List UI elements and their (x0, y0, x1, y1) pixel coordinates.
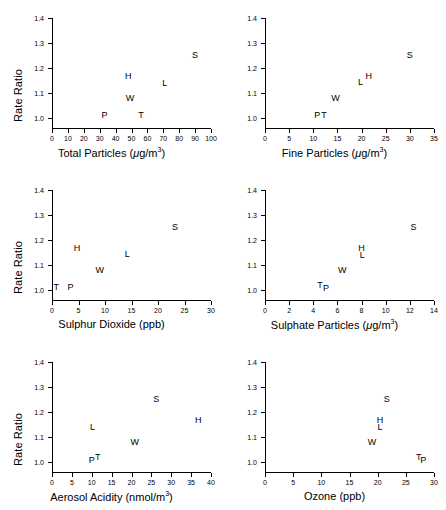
x-axis-title: Total Particles (μg/m3) (0, 146, 223, 159)
x-axis-line (265, 128, 434, 129)
data-point-S: S (404, 51, 416, 60)
x-tick-label: 5 (281, 479, 305, 486)
y-tick (261, 437, 265, 438)
x-tick-label: 20 (146, 307, 170, 314)
x-tick (52, 301, 53, 305)
x-tick (362, 129, 363, 133)
data-point-L: L (374, 423, 386, 432)
x-axis-title: Fine Particles (μg/m3) (223, 146, 446, 159)
y-tick (261, 93, 265, 94)
data-point-L: L (121, 250, 133, 259)
x-tick (105, 301, 106, 305)
y-tick (261, 290, 265, 291)
y-tick-label: 1.2 (231, 409, 257, 416)
x-tick-label: 8 (350, 307, 374, 314)
x-tick-label: 20 (350, 135, 374, 142)
x-tick (350, 473, 351, 477)
x-tick (434, 473, 435, 477)
x-axis-title: Aerosol Acidity (nmol/m3) (0, 490, 223, 503)
y-tick-label: 1.3 (18, 212, 44, 219)
y-tick (48, 265, 52, 266)
data-point-S: S (381, 395, 393, 404)
x-tick (362, 301, 363, 305)
x-tick (434, 129, 435, 133)
y-tick (48, 437, 52, 438)
x-tick-label: 30 (422, 479, 446, 486)
x-tick-label: 10 (374, 307, 398, 314)
x-tick-label: 10 (93, 307, 117, 314)
x-tick (337, 129, 338, 133)
data-point-W: W (366, 438, 378, 447)
y-tick-label: 1.3 (231, 40, 257, 47)
x-tick-label: 25 (173, 307, 197, 314)
x-tick (163, 129, 164, 133)
plot-area: 1.01.11.21.31.40510152025303540PTLWSHRat… (0, 344, 223, 510)
x-tick (179, 129, 180, 133)
y-tick-label: 1.4 (231, 187, 257, 194)
y-tick (261, 18, 265, 19)
x-tick (211, 301, 212, 305)
y-tick-label: 1.4 (231, 15, 257, 22)
y-tick (261, 68, 265, 69)
y-tick (261, 412, 265, 413)
y-tick (48, 362, 52, 363)
x-tick-label: 25 (394, 479, 418, 486)
x-tick-label: 15 (120, 307, 144, 314)
data-point-L: L (356, 251, 368, 260)
x-axis-title: Sulphur Dioxide (ppb) (0, 318, 223, 330)
y-tick (261, 43, 265, 44)
y-tick (261, 462, 265, 463)
data-point-W: W (94, 266, 106, 275)
x-tick-label: 15 (338, 479, 362, 486)
x-tick (293, 473, 294, 477)
y-axis-line (265, 18, 266, 128)
y-tick-label: 1.4 (231, 359, 257, 366)
y-tick-label: 1.3 (18, 384, 44, 391)
y-axis-line (52, 362, 53, 472)
x-tick (171, 473, 172, 477)
x-tick (116, 129, 117, 133)
y-tick (261, 387, 265, 388)
data-point-S: S (169, 223, 181, 232)
y-axis-line (265, 190, 266, 300)
x-tick (386, 129, 387, 133)
data-point-P: P (65, 283, 77, 292)
y-tick-label: 1.2 (231, 65, 257, 72)
y-axis-title: Rate Ratio (12, 69, 24, 122)
x-tick-label: 5 (67, 307, 91, 314)
data-point-L: L (159, 79, 171, 88)
data-point-S: S (189, 51, 201, 60)
y-tick (48, 387, 52, 388)
x-tick-label: 5 (277, 135, 301, 142)
x-tick (410, 301, 411, 305)
x-tick (289, 301, 290, 305)
y-tick (48, 68, 52, 69)
x-tick (52, 473, 53, 477)
data-point-L: L (87, 423, 99, 432)
x-tick (84, 129, 85, 133)
x-tick (151, 473, 152, 477)
data-point-T: T (135, 111, 147, 120)
x-tick-label: 2 (277, 307, 301, 314)
y-tick (48, 43, 52, 44)
data-point-H: H (122, 72, 134, 81)
x-tick-label: 6 (325, 307, 349, 314)
y-tick-label: 1.4 (18, 15, 44, 22)
x-tick (92, 473, 93, 477)
x-tick (211, 473, 212, 477)
y-tick (261, 240, 265, 241)
x-tick (313, 301, 314, 305)
x-tick (289, 129, 290, 133)
data-point-W: W (336, 266, 348, 275)
plot-area: 1.01.11.21.31.4051015202530WHLSTPOzone (… (223, 344, 446, 510)
plot-area: 1.01.11.21.31.402468101214TPWHLSSulphate… (223, 172, 446, 342)
y-tick (48, 215, 52, 216)
y-tick (48, 93, 52, 94)
x-tick-label: 25 (374, 135, 398, 142)
x-tick (321, 473, 322, 477)
y-tick-label: 1.3 (231, 212, 257, 219)
data-point-T: T (50, 283, 62, 292)
data-point-P: P (320, 284, 332, 293)
y-tick-label: 1.4 (18, 187, 44, 194)
x-tick-label: 0 (253, 479, 277, 486)
